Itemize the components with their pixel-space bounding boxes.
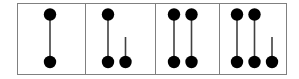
- figure-frame: [18, 4, 287, 75]
- graph-panels-canvas: [0, 0, 299, 79]
- node-p3-bottom-1: [168, 56, 180, 68]
- node-p4-top-2: [248, 8, 260, 20]
- graph-panels-figure: [0, 0, 299, 79]
- node-p4-bottom-1: [231, 56, 243, 68]
- node-p4-top-1: [231, 8, 243, 20]
- node-p2-bottom-1: [102, 56, 114, 68]
- node-p3-bottom-2: [185, 56, 197, 68]
- node-p4-bottom-3: [266, 56, 278, 68]
- node-p1-bottom-1: [44, 56, 56, 68]
- node-p4-bottom-2: [248, 56, 260, 68]
- node-p2-bottom-2: [119, 56, 131, 68]
- node-p3-top-2: [185, 8, 197, 20]
- panel-frames: [18, 4, 287, 75]
- node-p1-top-1: [44, 8, 56, 20]
- node-p2-top-1: [102, 8, 114, 20]
- node-p3-top-1: [168, 8, 180, 20]
